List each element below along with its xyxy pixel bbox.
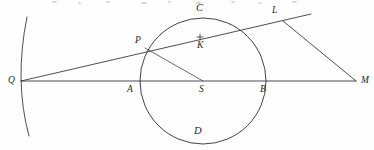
segment-LM — [283, 21, 356, 81]
segment-Q-to-L-secant — [21, 14, 311, 81]
left-arc — [21, 17, 29, 136]
point-label-P: P — [135, 36, 141, 46]
point-label-A: A — [127, 85, 133, 95]
point-label-Q: Q — [8, 76, 15, 86]
point-label-L: L — [272, 6, 277, 16]
point-label-K: K — [197, 41, 203, 51]
geometry-figure: Q A S B M P C D K L — [0, 0, 374, 150]
point-label-D: D — [194, 126, 202, 137]
point-label-C: C — [196, 3, 203, 14]
point-label-B: B — [260, 85, 266, 95]
geometry-canvas — [0, 0, 374, 150]
point-label-S: S — [199, 85, 204, 95]
point-label-M: M — [361, 76, 369, 86]
segment-PS-radius — [145, 48, 203, 81]
